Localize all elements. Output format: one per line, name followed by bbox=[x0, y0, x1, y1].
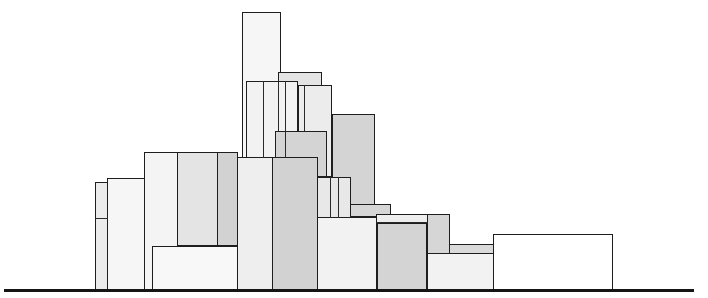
divider-line bbox=[95, 218, 108, 219]
divider-line bbox=[304, 85, 305, 131]
divider-line bbox=[285, 131, 286, 157]
block-left-main-dark bbox=[217, 152, 238, 246]
block-center-small-stack bbox=[317, 177, 351, 218]
block-right-strip-gray bbox=[377, 223, 427, 290]
block-left-wide bbox=[107, 178, 145, 290]
block-center-gray bbox=[272, 157, 318, 290]
block-far-right-gray bbox=[427, 214, 450, 254]
block-right-light-low bbox=[317, 217, 377, 290]
divider-line bbox=[285, 81, 286, 131]
block-left-bottom bbox=[152, 246, 238, 290]
baseline bbox=[4, 289, 694, 292]
block-left-main-mid bbox=[177, 152, 218, 246]
block-diagram bbox=[0, 0, 708, 298]
divider-line bbox=[330, 177, 331, 218]
divider-line bbox=[278, 81, 279, 131]
block-far-right-white bbox=[493, 234, 613, 290]
divider-line bbox=[263, 81, 264, 158]
block-center-light bbox=[237, 157, 273, 290]
block-far-right-low bbox=[427, 253, 494, 290]
divider-line bbox=[338, 177, 339, 218]
divider-line bbox=[376, 222, 428, 223]
